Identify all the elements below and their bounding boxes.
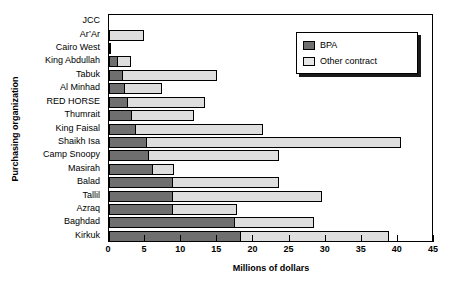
bar-row bbox=[109, 124, 263, 135]
light-gray-swatch-icon bbox=[303, 57, 315, 66]
bar-row bbox=[109, 56, 131, 67]
bar-row bbox=[109, 204, 237, 215]
bar-segment-bpa bbox=[109, 137, 147, 148]
bar-segment-other-contract bbox=[128, 97, 205, 108]
legend-label-bpa: BPA bbox=[320, 40, 337, 50]
x-tick-mark bbox=[252, 235, 253, 242]
bar-segment-other-contract bbox=[153, 164, 174, 175]
x-tick-label: 15 bbox=[211, 244, 221, 254]
bar-segment-other-contract bbox=[241, 231, 389, 242]
bar-segment-bpa bbox=[109, 164, 153, 175]
y-axis-label: Cairo West bbox=[56, 42, 100, 53]
y-axis-label: Camp Snoopy bbox=[43, 149, 100, 160]
y-axis-label: Kirkuk bbox=[75, 230, 100, 241]
x-axis-title: Millions of dollars bbox=[108, 263, 434, 273]
y-axis-label: RED HORSE bbox=[46, 96, 100, 107]
bar-segment-bpa bbox=[109, 177, 173, 188]
bar-segment-bpa bbox=[109, 83, 125, 94]
x-tick-label: 45 bbox=[428, 244, 438, 254]
bar-segment-other-contract bbox=[136, 124, 262, 135]
bar-row bbox=[109, 231, 389, 242]
y-axis-label: Tabuk bbox=[76, 69, 100, 80]
y-axis-label: Azraq bbox=[76, 203, 100, 214]
y-axis-label: JCC bbox=[83, 15, 101, 26]
dark-gray-swatch-icon bbox=[303, 41, 315, 50]
x-tick-label: 20 bbox=[247, 244, 257, 254]
bar-row bbox=[109, 191, 322, 202]
x-tick-mark bbox=[361, 235, 362, 242]
bar-row bbox=[109, 217, 314, 228]
bar-segment-other-contract bbox=[123, 70, 217, 81]
bar-segment-other-contract bbox=[109, 30, 144, 41]
y-axis-label: Masirah bbox=[68, 163, 100, 174]
x-tick-label: 0 bbox=[105, 244, 110, 254]
bar-segment-other-contract bbox=[173, 177, 279, 188]
y-axis-label: Balad bbox=[77, 176, 100, 187]
y-axis-label: Thumrait bbox=[64, 109, 100, 120]
bar-row bbox=[109, 177, 279, 188]
bar-row bbox=[109, 110, 194, 121]
bar-row bbox=[109, 137, 401, 148]
x-tick-mark bbox=[433, 235, 434, 242]
bar-segment-other-contract bbox=[173, 191, 323, 202]
bar-row bbox=[109, 164, 174, 175]
x-tick-label: 25 bbox=[284, 244, 294, 254]
legend-item-bpa: BPA bbox=[303, 37, 411, 53]
x-tick-mark bbox=[108, 235, 109, 242]
x-tick-mark bbox=[180, 235, 181, 242]
x-tick-label: 30 bbox=[320, 244, 330, 254]
bar-row bbox=[109, 97, 205, 108]
x-tick-mark bbox=[397, 235, 398, 242]
bar-segment-bpa bbox=[109, 43, 111, 54]
x-tick-label: 40 bbox=[392, 244, 402, 254]
bar-segment-other-contract bbox=[173, 204, 237, 215]
legend-item-other-contract: Other contract bbox=[303, 53, 411, 69]
bar-row bbox=[109, 150, 279, 161]
bar-segment-bpa bbox=[109, 97, 128, 108]
bar-segment-bpa bbox=[109, 56, 118, 67]
bar-segment-bpa bbox=[109, 124, 136, 135]
x-tick-mark bbox=[325, 235, 326, 242]
stacked-bar-chart: Purchasing organization JCCAr’ArCairo We… bbox=[0, 0, 449, 285]
legend-label-other-contract: Other contract bbox=[320, 56, 377, 66]
y-axis-label: Baghdad bbox=[64, 216, 100, 227]
bar-segment-other-contract bbox=[149, 150, 278, 161]
x-tick-mark bbox=[289, 235, 290, 242]
bar-row bbox=[109, 43, 111, 54]
x-tick-mark bbox=[144, 235, 145, 242]
y-axis-label: Tallil bbox=[82, 190, 100, 201]
bar-segment-bpa bbox=[109, 150, 149, 161]
chart-legend: BPA Other contract bbox=[296, 32, 418, 74]
bar-segment-other-contract bbox=[147, 137, 401, 148]
bar-segment-bpa bbox=[109, 217, 235, 228]
x-tick-label: 35 bbox=[356, 244, 366, 254]
bar-row bbox=[109, 30, 144, 41]
y-axis-label: King Faisal bbox=[55, 123, 100, 134]
bar-segment-bpa bbox=[109, 191, 173, 202]
y-axis-label: King Abdullah bbox=[45, 55, 100, 66]
y-axis-label: Shaikh Isa bbox=[58, 136, 100, 147]
bar-segment-bpa bbox=[109, 231, 241, 242]
bar-segment-other-contract bbox=[132, 110, 194, 121]
y-axis-label: Ar’Ar bbox=[80, 29, 100, 40]
bar-segment-bpa bbox=[109, 204, 173, 215]
bar-row bbox=[109, 70, 217, 81]
bar-segment-other-contract bbox=[118, 56, 130, 67]
x-tick-mark bbox=[216, 235, 217, 242]
bar-segment-other-contract bbox=[125, 83, 162, 94]
bar-segment-bpa bbox=[109, 70, 123, 81]
y-axis-category-labels: JCCAr’ArCairo WestKing AbdullahTabukAl M… bbox=[0, 14, 105, 242]
bar-row bbox=[109, 83, 162, 94]
bar-segment-bpa bbox=[109, 110, 132, 121]
x-tick-label: 5 bbox=[142, 244, 147, 254]
y-axis-label: Al Minhad bbox=[60, 82, 100, 93]
bar-segment-other-contract bbox=[235, 217, 314, 228]
x-tick-label: 10 bbox=[175, 244, 185, 254]
